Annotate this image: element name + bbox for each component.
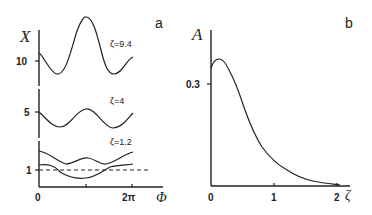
x-tick-label-1: 1 (271, 192, 277, 203)
panel-b-label: b (345, 15, 353, 31)
curve-amplitude (211, 59, 340, 185)
x-axis-label-zeta: ζ (345, 188, 352, 203)
x-tick-label-0: 0 (35, 192, 41, 203)
panel-a: a X 10 5 1 0 2π Φ ζ=9.4 ζ=4 ζ=1.2 (16, 15, 167, 205)
x-tick-label-2pi: 2π (122, 192, 136, 203)
annotation-zeta-4: ζ=4 (110, 96, 124, 106)
y-axis-label-x: X (19, 27, 31, 46)
curve-zeta-4 (39, 109, 133, 128)
y-tick-label-10: 10 (16, 56, 28, 67)
x-tick-label-0: 0 (208, 192, 214, 203)
annotation-zeta-9.4: ζ=9.4 (110, 39, 132, 49)
figure: a X 10 5 1 0 2π Φ ζ=9.4 ζ=4 ζ=1.2 (0, 0, 372, 215)
y-tick-label-5: 5 (24, 107, 30, 118)
x-tick-label-2: 2 (334, 192, 340, 203)
curve-zeta-1.2-upper (39, 151, 133, 164)
x-axis-label-phi: Φ (156, 190, 167, 205)
annotation-zeta-1.2: ζ=1.2 (110, 137, 132, 147)
panel-b: b A 0.3 0 1 2 ζ (186, 15, 353, 203)
y-axis-label-a: A (191, 25, 203, 44)
y-tick-label-1: 1 (26, 165, 32, 176)
curve-zeta-1.2-lower (39, 164, 133, 178)
panel-a-label: a (155, 15, 163, 31)
y-tick-label-0.3: 0.3 (186, 79, 200, 90)
